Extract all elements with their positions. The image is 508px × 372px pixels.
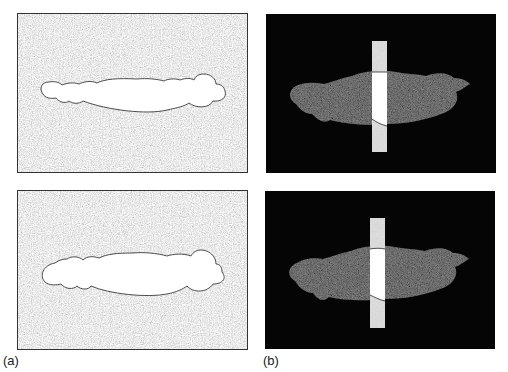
panel-b-top — [266, 14, 496, 173]
subfigure-label-a: (a) — [3, 354, 19, 367]
noisy-gray-image-with-blob — [17, 13, 248, 173]
panel-b-bottom — [265, 191, 495, 349]
panel-a-top — [17, 13, 248, 173]
noisy-gray-image-with-blob — [17, 190, 248, 350]
dark-image-with-strip — [265, 191, 495, 349]
dark-image-with-strip — [266, 14, 496, 173]
subfigure-label-b: (b) — [263, 354, 279, 367]
panel-a-bottom — [17, 190, 248, 350]
vertical-strip — [370, 218, 385, 328]
vertical-strip — [372, 41, 387, 152]
